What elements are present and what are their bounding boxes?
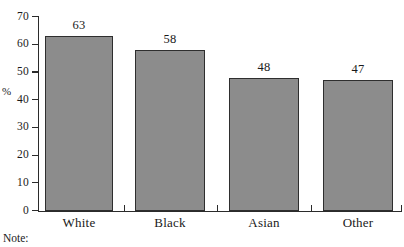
x-axis-category-label: Asian xyxy=(217,216,311,230)
x-axis-category-label: Black xyxy=(123,216,217,230)
y-axis-title: % xyxy=(2,86,11,97)
y-axis-tick xyxy=(32,182,38,183)
y-axis-tick-label: 0 xyxy=(0,205,29,217)
x-axis-tick xyxy=(401,205,402,211)
x-axis-category-label: Other xyxy=(311,216,404,230)
y-axis-line xyxy=(38,16,39,212)
chart-page: 010203040506070 % 63White58Black48Asian4… xyxy=(0,0,404,247)
x-axis-tick xyxy=(124,205,125,211)
bar-value-label: 47 xyxy=(323,63,393,76)
bar xyxy=(229,78,299,211)
y-axis-tick-label: 30 xyxy=(0,121,29,133)
x-axis-tick xyxy=(217,205,218,211)
y-axis-tick xyxy=(32,16,38,17)
y-axis-tick xyxy=(32,44,38,45)
y-axis-tick-label: 50 xyxy=(0,66,29,78)
y-axis-tick xyxy=(32,127,38,128)
x-axis-tick xyxy=(38,205,39,211)
y-axis-tick xyxy=(32,155,38,156)
x-axis-category-label: White xyxy=(33,216,125,230)
note-label: Note: xyxy=(3,232,29,244)
bar xyxy=(323,80,393,210)
bar-value-label: 58 xyxy=(135,33,205,46)
y-axis-tick-label: 60 xyxy=(0,38,29,50)
y-axis-tick xyxy=(32,99,38,100)
y-axis-tick xyxy=(32,71,38,72)
y-axis-tick-label: 20 xyxy=(0,149,29,161)
x-axis-tick xyxy=(311,205,312,211)
x-axis-line xyxy=(38,211,402,212)
y-axis-tick-label: 10 xyxy=(0,177,29,189)
bar xyxy=(45,36,113,211)
bar-value-label: 63 xyxy=(45,19,113,32)
bar-value-label: 48 xyxy=(229,61,299,74)
bar-chart: 010203040506070 % 63White58Black48Asian4… xyxy=(0,0,404,247)
bar xyxy=(135,50,205,211)
y-axis-tick-label: 70 xyxy=(0,11,29,23)
